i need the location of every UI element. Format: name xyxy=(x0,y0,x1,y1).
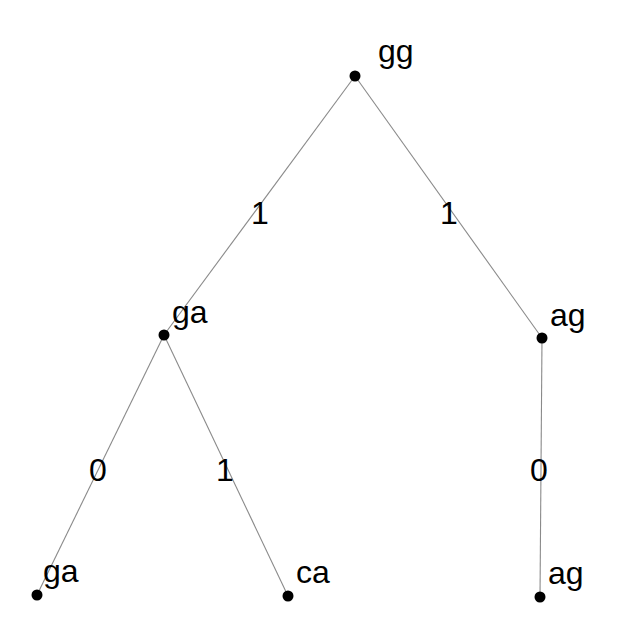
tree-diagram: 11010 gggaaggacaag xyxy=(0,0,621,637)
node-label: ag xyxy=(550,297,586,333)
tree-node-dot xyxy=(535,592,546,603)
node-label: ag xyxy=(548,555,584,591)
tree-node-dot xyxy=(32,590,43,601)
tree-node-dot xyxy=(159,330,170,341)
edge-label: 1 xyxy=(251,195,269,231)
tree-diagram-svg: 11010 gggaaggacaag xyxy=(0,0,621,637)
edge-label: 1 xyxy=(440,195,458,231)
edge-labels-layer: 11010 xyxy=(89,195,548,488)
tree-node-dot xyxy=(537,333,548,344)
node-label: ga xyxy=(43,553,79,589)
node-labels-layer: gggaaggacaag xyxy=(43,33,586,591)
edge-label: 0 xyxy=(89,452,107,488)
edge-label: 0 xyxy=(530,452,548,488)
node-label: ca xyxy=(296,554,330,590)
tree-node-dot xyxy=(350,71,361,82)
edges-layer xyxy=(37,76,542,597)
node-label: ga xyxy=(172,294,208,330)
edge-label: 1 xyxy=(216,452,234,488)
nodes-layer xyxy=(32,71,548,603)
node-label: gg xyxy=(378,33,414,69)
tree-node-dot xyxy=(283,591,294,602)
